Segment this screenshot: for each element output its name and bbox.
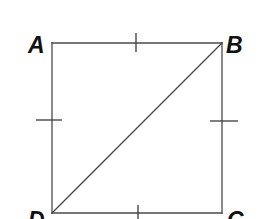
vertex-label-d: D xyxy=(28,207,45,219)
vertex-label-b: B xyxy=(226,32,243,58)
diagonal-db xyxy=(52,43,222,213)
vertex-label-c: C xyxy=(227,207,244,219)
vertex-label-a: A xyxy=(27,32,45,58)
square-abcd-diagram: A B C D xyxy=(0,0,259,219)
